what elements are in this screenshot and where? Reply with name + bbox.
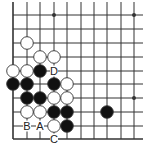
label-c: C: [50, 133, 58, 145]
black-stone: [34, 65, 47, 78]
white-stone: [48, 92, 61, 105]
white-stone: [7, 65, 20, 78]
white-stone: [34, 106, 47, 119]
star-point: [132, 96, 136, 100]
black-stone: [61, 106, 74, 119]
black-stone: [34, 92, 47, 105]
label-a: A: [36, 120, 44, 132]
star-point: [132, 13, 136, 17]
black-stone: [48, 78, 61, 91]
white-stone: [34, 51, 47, 64]
black-stone: [61, 120, 74, 133]
star-point: [52, 13, 56, 17]
black-stone: [48, 106, 61, 119]
white-stone: [21, 37, 34, 50]
label-b: B: [23, 120, 30, 132]
white-stone: [21, 65, 34, 78]
black-stone: [21, 92, 34, 105]
black-stone: [7, 78, 20, 91]
black-stone: [21, 78, 34, 91]
white-stone: [61, 78, 74, 91]
black-stone: [101, 106, 114, 119]
white-stone: [61, 92, 74, 105]
white-stone: [48, 120, 61, 133]
label-d: D: [50, 65, 58, 77]
go-board: DBAC: [0, 0, 149, 152]
white-stone: [21, 106, 34, 119]
white-stone: [48, 51, 61, 64]
